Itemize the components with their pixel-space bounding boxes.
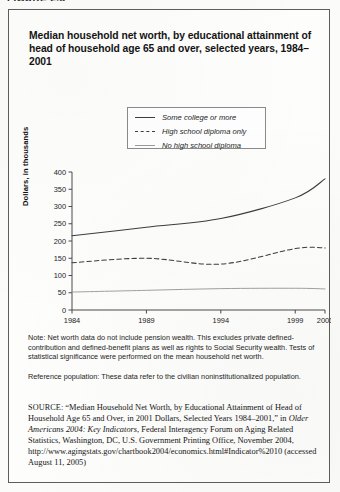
figure-frame: Median household net worth, by education… [8,9,330,483]
chart-legend: Some college or more High school diploma… [127,107,266,149]
svg-text:50: 50 [58,288,66,297]
source-text-part1: : “Median Household Net Worth, by Educat… [28,403,302,423]
source-label: SOURCE [28,403,61,412]
svg-text:100: 100 [54,271,66,280]
chart-note: Note: Net worth data do not include pens… [28,333,320,362]
svg-text:350: 350 [54,185,66,194]
reference-population-note: Reference population: These data refer t… [28,372,320,382]
svg-text:300: 300 [54,202,66,211]
page-title: Median household net worth, by education… [29,29,319,69]
svg-text:0: 0 [62,306,66,315]
line-chart: 0501001502002503003504001984198919941999… [25,162,331,330]
legend-item-high-school: High school diploma only [128,125,265,137]
svg-text:400: 400 [54,168,66,177]
svg-text:1999: 1999 [287,316,303,325]
legend-item-no-high-school: No high school diploma [128,139,265,151]
legend-line-swatch-icon [135,117,155,118]
chart-area: Dollars, in thousands 050100150200250300… [25,162,331,330]
svg-text:1989: 1989 [138,316,154,325]
svg-text:250: 250 [54,219,66,228]
svg-text:150: 150 [54,254,66,263]
legend-dashed-line-swatch-icon [135,131,155,132]
svg-text:1994: 1994 [213,316,229,325]
legend-item-label: Some college or more [162,113,236,122]
svg-text:2001: 2001 [317,316,331,325]
figure-caption: FIGURE 2.5 [7,0,65,1]
svg-text:200: 200 [54,237,66,246]
figure-page: FIGURE 2.5 Median household net worth, b… [0,0,340,492]
legend-item-some-college: Some college or more [128,111,265,123]
legend-item-label: High school diploma only [162,127,246,136]
legend-light-line-swatch-icon [135,145,155,146]
source-citation: SOURCE: “Median Household Net Worth, by … [28,402,322,469]
legend-item-label: No high school diploma [162,141,241,150]
svg-text:1984: 1984 [64,316,80,325]
